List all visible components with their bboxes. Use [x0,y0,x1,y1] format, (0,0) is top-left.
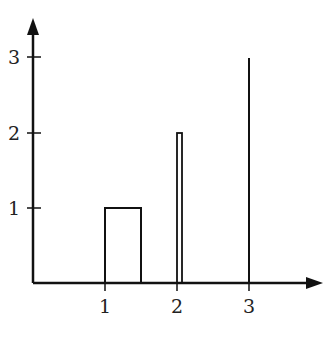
bar-2 [177,133,182,283]
y-axis-arrow-icon [27,18,39,35]
y-tick-label-1: 1 [8,197,20,219]
y-tick-label-2: 2 [8,122,20,144]
y-tick-label-3: 3 [8,46,20,68]
x-tick-label-3: 3 [243,295,255,317]
bar-chart: 1 2 3 1 2 3 [0,0,330,359]
x-tick-label-1: 1 [99,295,111,317]
x-tick-label-2: 2 [171,295,183,317]
bar-1 [105,208,141,283]
x-axis-arrow-icon [306,277,323,289]
